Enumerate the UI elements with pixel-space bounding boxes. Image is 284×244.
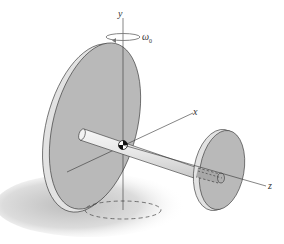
omega-subscript: 0	[149, 38, 152, 44]
small-disk	[187, 125, 250, 214]
z-axis-label: z	[268, 181, 272, 191]
x-axis-label: x	[193, 107, 197, 117]
y-axis-label: y	[118, 9, 122, 19]
omega-symbol: ω	[142, 31, 149, 42]
angular-velocity-label: ω0	[142, 32, 152, 44]
diagram: y x z ω0	[0, 0, 284, 244]
